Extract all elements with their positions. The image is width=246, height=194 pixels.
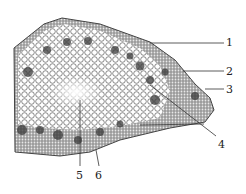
label-4: 4: [218, 139, 225, 150]
leader-line-6: [96, 150, 99, 166]
stem-cross-section-figure: 1 2 3 4 5 6: [0, 0, 246, 194]
label-5: 5: [76, 170, 83, 181]
pith-center: [50, 76, 102, 108]
label-2: 2: [226, 66, 233, 77]
label-6: 6: [95, 170, 102, 181]
label-1: 1: [226, 37, 233, 48]
label-3: 3: [226, 84, 233, 95]
cross-section-drawing: [0, 0, 246, 194]
ground-tissue: [18, 24, 170, 130]
